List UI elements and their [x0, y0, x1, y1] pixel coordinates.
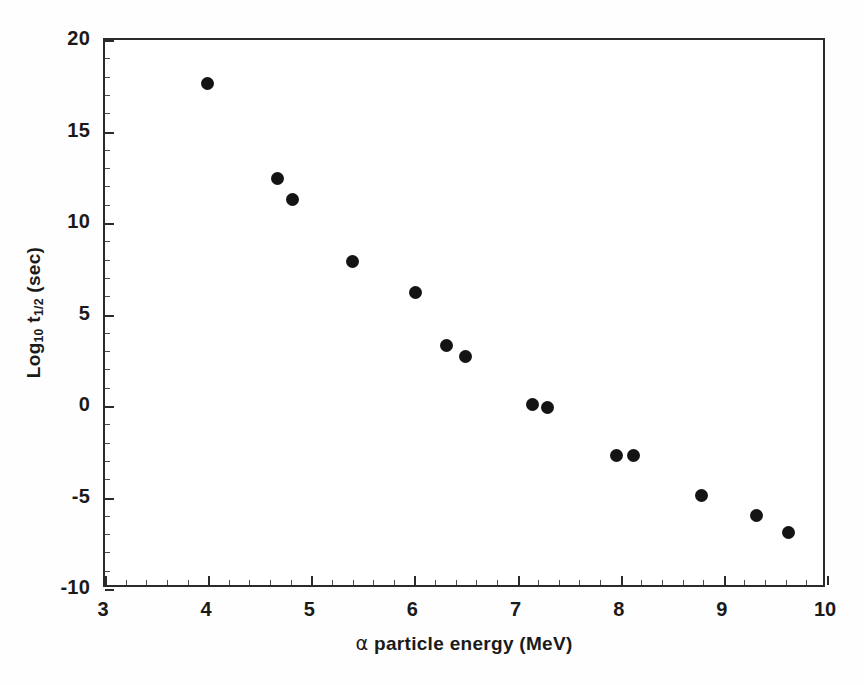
x-tick-major: [518, 576, 520, 585]
x-tick-minor: [765, 580, 766, 585]
y-tick-label: 5: [79, 301, 90, 324]
x-tick-minor: [373, 580, 374, 585]
x-tick-minor: [456, 580, 457, 585]
x-tick-minor: [126, 580, 127, 585]
y-tick-minor: [105, 351, 110, 352]
y-tick-minor: [105, 516, 110, 517]
x-tick-major: [105, 576, 107, 585]
x-tick-minor: [786, 580, 787, 585]
y-tick-minor: [105, 369, 110, 370]
x-tick-label: 8: [613, 598, 624, 621]
alpha-symbol: α: [355, 632, 368, 655]
y-tick-minor: [105, 260, 110, 261]
y-tick-minor: [105, 186, 110, 187]
x-tick-label: 9: [716, 598, 727, 621]
y-tick-minor: [105, 278, 110, 279]
y-tick-minor: [105, 571, 110, 572]
x-tick-label: 7: [510, 598, 521, 621]
y-tick-minor: [105, 296, 110, 297]
x-tick-label: 6: [407, 598, 418, 621]
y-tick-minor: [105, 77, 110, 78]
y-axis-title-base-subscript: 10: [33, 328, 47, 342]
x-tick-minor: [744, 580, 745, 585]
y-tick-major: [105, 406, 114, 408]
x-tick-minor: [662, 580, 663, 585]
y-tick-label: 10: [67, 210, 90, 233]
x-axis-title: α particle energy (MeV): [103, 632, 825, 655]
y-tick-minor: [105, 424, 110, 425]
y-tick-label: -5: [72, 484, 90, 507]
y-tick-minor: [105, 388, 110, 389]
x-tick-minor: [332, 580, 333, 585]
y-tick-minor: [105, 58, 110, 59]
y-tick-label: 15: [67, 118, 90, 141]
y-tick-minor: [105, 168, 110, 169]
x-axis-tick-labels: 345678910: [103, 598, 825, 628]
x-tick-minor: [476, 580, 477, 585]
y-tick-major: [105, 498, 114, 500]
x-tick-minor: [167, 580, 168, 585]
x-tick-minor: [806, 580, 807, 585]
x-tick-minor: [579, 580, 580, 585]
y-tick-minor: [105, 113, 110, 114]
y-tick-major: [105, 589, 114, 591]
y-tick-minor: [105, 205, 110, 206]
x-tick-minor: [497, 580, 498, 585]
alpha-decay-scatter-figure: -10-505101520 345678910 Log10 t1/2 (sec)…: [0, 0, 864, 685]
x-tick-label: 4: [201, 598, 212, 621]
y-tick-label: 20: [67, 27, 90, 50]
x-tick-minor: [146, 580, 147, 585]
y-tick-minor: [105, 552, 110, 553]
x-tick-minor: [600, 580, 601, 585]
x-tick-minor: [538, 580, 539, 585]
y-tick-major: [105, 315, 114, 317]
x-tick-major: [827, 576, 829, 585]
x-tick-minor: [270, 580, 271, 585]
x-tick-minor: [703, 580, 704, 585]
y-tick-label: 0: [79, 393, 90, 416]
x-tick-major: [208, 576, 210, 585]
y-tick-minor: [105, 241, 110, 242]
y-tick-minor: [105, 479, 110, 480]
x-tick-minor: [683, 580, 684, 585]
x-tick-minor: [249, 580, 250, 585]
y-tick-minor: [105, 534, 110, 535]
y-axis-title-text: Log10 t1/2 (sec): [23, 247, 46, 378]
x-tick-label: 5: [304, 598, 315, 621]
y-tick-label: -10: [60, 576, 90, 599]
x-tick-major: [414, 576, 416, 585]
y-tick-minor: [105, 95, 110, 96]
y-tick-minor: [105, 333, 110, 334]
x-tick-minor: [435, 580, 436, 585]
y-axis-title-symbol: t: [23, 316, 44, 328]
y-tick-major: [105, 132, 114, 134]
y-tick-major: [105, 40, 114, 42]
y-tick-minor: [105, 461, 110, 462]
x-tick-minor: [291, 580, 292, 585]
y-axis-title-suffix: (sec): [23, 247, 44, 298]
y-tick-minor: [105, 443, 110, 444]
x-tick-label: 10: [814, 598, 836, 621]
x-tick-minor: [641, 580, 642, 585]
x-tick-label: 3: [97, 598, 108, 621]
y-tick-major: [105, 223, 114, 225]
x-tick-minor: [229, 580, 230, 585]
y-tick-minor: [105, 150, 110, 151]
x-tick-major: [311, 576, 313, 585]
x-tick-minor: [188, 580, 189, 585]
y-axis-title: Log10 t1/2 (sec): [16, 38, 54, 587]
plot-frame: [103, 38, 825, 587]
x-tick-major: [621, 576, 623, 585]
x-tick-minor: [394, 580, 395, 585]
x-tick-minor: [353, 580, 354, 585]
x-axis-title-text: particle energy (MeV): [369, 633, 573, 654]
y-axis-title-prefix: Log: [23, 342, 44, 378]
x-tick-minor: [559, 580, 560, 585]
y-axis-title-symbol-subscript: 1/2: [33, 298, 47, 316]
x-tick-major: [724, 576, 726, 585]
